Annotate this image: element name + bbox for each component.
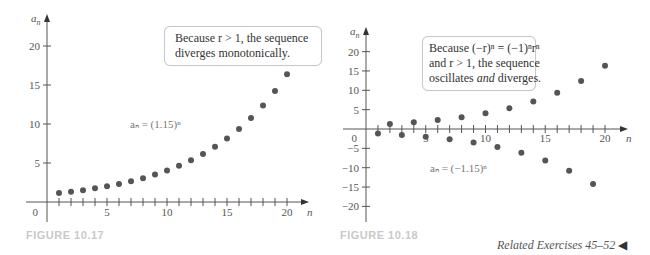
y-tick-label: −5	[347, 142, 359, 154]
data-point	[164, 167, 170, 173]
data-point	[506, 105, 512, 111]
callout-text: oscillates	[429, 71, 477, 85]
figure-caption-10-17: FIGURE 10.17	[26, 229, 104, 241]
callout-line: oscillates and diverges.	[429, 71, 529, 86]
sequence-formula-label: aₙ = (−1.15)ⁿ	[430, 162, 487, 175]
data-point	[248, 115, 254, 121]
data-point	[200, 151, 206, 157]
data-point	[578, 78, 584, 84]
callout-line: Because (−r)ⁿ = (−1)ⁿrⁿ	[429, 41, 529, 56]
y-axis-arrow-icon	[44, 14, 50, 22]
data-point	[272, 88, 278, 94]
y-tick-label: −15	[342, 181, 360, 193]
y-tick-label: 10	[348, 84, 360, 96]
data-point	[530, 99, 536, 105]
y-tick-label: 20	[29, 40, 41, 52]
figures-canvas: 510152051015200nanaₙ = (1.15)ⁿ 5101520−2…	[0, 0, 650, 255]
y-tick-label: 5	[354, 104, 360, 116]
arrow-left-icon: ◀	[618, 238, 627, 252]
data-point	[399, 132, 405, 138]
x-tick-label: 15	[222, 206, 234, 218]
y-tick-label: 20	[348, 46, 360, 58]
x-tick-label: 20	[282, 206, 294, 218]
y-axis-label: an	[31, 12, 41, 27]
data-point	[471, 140, 477, 146]
x-axis-label: n	[626, 132, 632, 144]
x-tick-label: 20	[600, 132, 612, 144]
y-tick-label: 15	[348, 65, 360, 77]
data-point	[152, 172, 158, 178]
data-point	[566, 168, 572, 174]
y-axis-label: an	[350, 25, 360, 40]
callout-line: diverges monotonically.	[175, 46, 311, 61]
y-tick-label: 15	[29, 79, 41, 91]
origin-label: 0	[352, 132, 358, 144]
x-tick-label: 5	[104, 206, 110, 218]
data-point	[387, 121, 393, 127]
sequence-formula-label: aₙ = (1.15)ⁿ	[130, 118, 181, 131]
data-point	[375, 130, 381, 136]
x-tick-label: 10	[162, 206, 174, 218]
data-point	[80, 187, 86, 193]
data-point	[435, 117, 441, 123]
callout-line: and r > 1, the sequence	[429, 56, 529, 71]
data-point	[176, 163, 182, 169]
data-point	[518, 150, 524, 156]
data-point	[494, 144, 500, 150]
x-tick-label: 15	[540, 132, 552, 144]
data-point	[590, 181, 596, 187]
callout-text: diverges.	[495, 71, 541, 85]
data-point	[447, 136, 453, 142]
callout-line: Because r > 1, the sequence	[175, 31, 311, 46]
y-tick-label: 5	[35, 157, 41, 169]
data-point	[224, 136, 230, 142]
x-axis-arrow-icon	[301, 199, 309, 205]
data-point	[56, 190, 62, 196]
x-tick-label: 10	[480, 132, 492, 144]
data-point	[554, 90, 560, 96]
callout-fig-10-18: Because (−r)ⁿ = (−1)ⁿrⁿ and r > 1, the s…	[422, 36, 536, 91]
callout-fig-10-17: Because r > 1, the sequence diverges mon…	[164, 26, 322, 66]
data-point	[483, 110, 489, 116]
data-point	[212, 144, 218, 150]
data-point	[92, 185, 98, 191]
x-axis-label: n	[307, 206, 313, 218]
data-point	[423, 134, 429, 140]
y-axis-arrow-icon	[363, 27, 369, 35]
data-point	[104, 183, 110, 189]
data-point	[68, 189, 74, 195]
data-point	[260, 102, 266, 108]
data-point	[411, 119, 417, 125]
data-point	[284, 71, 290, 77]
y-tick-label: 10	[29, 118, 41, 130]
data-point	[140, 175, 146, 181]
data-point	[459, 114, 465, 120]
data-point	[116, 181, 122, 187]
related-exercises-text: Related Exercises 45–52	[497, 238, 615, 252]
data-point	[602, 63, 608, 69]
callout-emphasis: and	[477, 71, 495, 85]
data-point	[236, 126, 242, 132]
figure-caption-10-18: FIGURE 10.18	[340, 229, 418, 241]
data-point	[542, 158, 548, 164]
y-tick-label: −20	[342, 200, 360, 212]
origin-label: 0	[33, 206, 39, 218]
data-point	[188, 157, 194, 163]
related-exercises: Related Exercises 45–52 ◀	[497, 238, 627, 253]
data-point	[128, 178, 134, 184]
y-tick-label: −10	[342, 162, 360, 174]
